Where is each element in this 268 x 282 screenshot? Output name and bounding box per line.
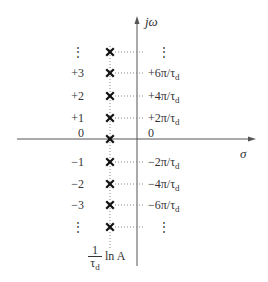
index-label: −2 (54, 178, 84, 190)
frequency-label: −4π/τd (148, 178, 179, 194)
frequency-label: +6π/τd (148, 67, 179, 83)
real-axis-arrow-icon (248, 137, 256, 142)
index-label: +2 (54, 90, 84, 102)
frequency-label: +4π/τd (148, 90, 179, 106)
index-label: −1 (54, 156, 84, 168)
frequency-label: −2π/τd (148, 156, 179, 172)
pole-x-icon (107, 93, 113, 99)
imaginary-axis-label: jω (145, 16, 158, 28)
index-label: +3 (54, 67, 84, 79)
index-label: ⋮ (54, 46, 84, 58)
frequency-label: 0 (148, 127, 154, 139)
real-axis-label: σ (240, 148, 246, 160)
index-label: +1 (54, 112, 84, 124)
fraction-denominator: τd (88, 257, 102, 274)
index-label: −3 (54, 199, 84, 211)
index-label: ⋮ (54, 221, 84, 233)
imaginary-axis-arrow-icon (135, 16, 140, 24)
pole-real-part-fraction: 1 τd (88, 244, 102, 274)
frequency-label: ⋮ (158, 46, 170, 58)
pole-x-icon (107, 159, 113, 165)
s-plane-canvas (0, 0, 268, 282)
index-label: 0 (54, 127, 84, 139)
pole-real-part-suffix: ln A (105, 250, 125, 262)
frequency-label: ⋮ (158, 221, 170, 233)
frequency-label: −6π/τd (148, 199, 179, 215)
